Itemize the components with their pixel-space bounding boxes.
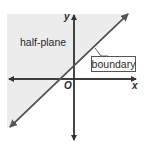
- boundary-label-box: boundary: [91, 56, 136, 72]
- origin-label: O: [64, 81, 72, 91]
- graph-canvas: [0, 0, 144, 145]
- half-plane-diagram: half-plane boundary y x O: [0, 0, 144, 145]
- boundary-callout-leader: [95, 48, 108, 56]
- x-axis-label: x: [132, 81, 138, 91]
- y-axis-label: y: [64, 12, 70, 22]
- half-plane-label: half-plane: [20, 37, 66, 48]
- boundary-label: boundary: [92, 58, 136, 70]
